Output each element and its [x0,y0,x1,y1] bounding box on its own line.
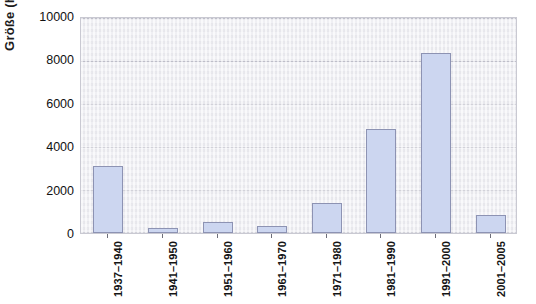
x-axis-tick-label: 1961–1970 [276,241,288,304]
plot-area [80,17,517,234]
x-axis-tick-mark [271,234,272,238]
x-axis-tick-mark [217,234,218,238]
x-axis-tick-label: 1951–1960 [222,241,234,304]
x-axis-tick-mark [490,234,491,238]
bar [93,166,123,233]
y-axis-tick-label: 10000 [0,10,74,24]
x-axis-tick-label: 2001–2005 [495,241,507,304]
x-axis-tick-mark [380,234,381,238]
x-axis-tick-label: 1991–2000 [440,241,452,304]
bar [476,215,506,233]
y-axis-tick-label: 6000 [0,97,74,111]
bar [421,53,451,233]
y-axis-tick-label: 4000 [0,140,74,154]
y-axis-tick-label: 0 [0,227,74,241]
y-axis-tick-labels: 0 2000 4000 6000 8000 10000 [0,17,74,234]
x-axis-tick-label: 1937–1940 [112,241,124,304]
x-axis-tick-label: 1941–1950 [167,241,179,304]
x-axis-tick-mark [162,234,163,238]
bar-chart-figure: Größe (ha) 0 2000 4000 6000 8000 10000 1… [0,0,536,304]
x-axis-tick-label: 1971–1980 [331,241,343,304]
x-axis-tick-mark [435,234,436,238]
bar [257,226,287,233]
bar [203,222,233,233]
bar [366,129,396,233]
x-axis-tick-label: 1981–1990 [385,241,397,304]
x-axis-tick-mark [107,234,108,238]
bar [148,228,178,233]
bar [312,203,342,233]
gridline [81,18,516,19]
y-axis-tick-label: 2000 [0,184,74,198]
y-axis-tick-label: 8000 [0,53,74,67]
x-axis-tick-mark [326,234,327,238]
x-axis: 1937–19401941–19501951–19601961–19701971… [80,234,517,304]
